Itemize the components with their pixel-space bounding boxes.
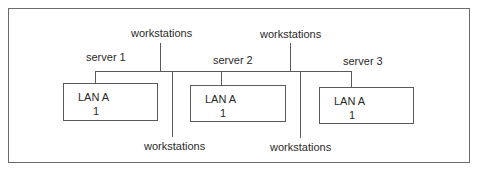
lan-box-number: 1 [349,109,355,121]
server-3-label: server 3 [343,55,383,67]
bottom-workstations-1-label: workstations [144,140,205,152]
lan-box-server-3: LAN A 1 [319,87,414,124]
server-1-connector [95,71,96,83]
top-workstations-1-line [160,43,161,71]
lan-box-title: LAN A [205,93,236,105]
network-bus-line [95,71,352,72]
lan-box-number: 1 [220,107,226,119]
bottom-workstations-2-line [300,72,301,138]
server-2-label: server 2 [213,54,253,66]
lan-box-title: LAN A [78,91,109,103]
lan-box-server-1: LAN A 1 [63,83,158,121]
server-3-connector [351,72,352,87]
lan-box-number: 1 [93,105,99,117]
lan-box-server-2: LAN A 1 [190,85,286,122]
top-workstations-2-line [290,43,291,72]
top-workstations-2-label: workstations [260,28,321,40]
bottom-workstations-2-label: workstations [270,141,331,153]
top-workstations-1-label: workstations [131,27,192,39]
server-1-label: server 1 [86,51,126,63]
server-2-connector [221,71,222,85]
bottom-workstations-1-line [172,71,173,137]
lan-box-title: LAN A [334,95,365,107]
